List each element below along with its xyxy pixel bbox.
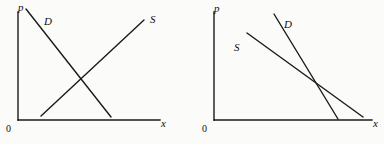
panel-normal-supply-demand: p 0 x D S <box>0 0 192 144</box>
origin-label: 0 <box>202 124 207 134</box>
supply-curve-label: S <box>150 14 156 25</box>
y-axis-label: p <box>214 3 220 14</box>
supply-curve-label: S <box>234 42 240 53</box>
supply-curve <box>247 33 363 117</box>
demand-curve-label: D <box>284 19 292 30</box>
supply-curve <box>41 20 144 116</box>
panel-both-downward-sloping: p 0 x S D <box>192 0 384 144</box>
y-axis-label: p <box>18 2 24 13</box>
x-axis-label: x <box>161 118 166 129</box>
x-axis-label: x <box>373 118 378 129</box>
economics-figure: p 0 x D S p 0 x S D <box>0 0 384 144</box>
demand-curve-label: D <box>44 16 52 27</box>
origin-label: 0 <box>6 124 11 134</box>
